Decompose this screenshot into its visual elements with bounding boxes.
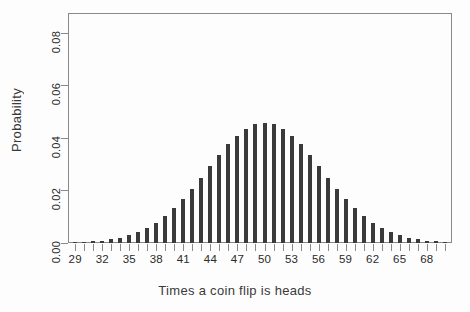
- bar: [380, 228, 384, 243]
- x-axis-tick: [237, 244, 238, 251]
- x-axis-tick: [120, 244, 121, 251]
- x-axis-tick: [382, 244, 383, 251]
- bar: [425, 241, 429, 243]
- x-axis-tick: [255, 244, 256, 251]
- y-axis-tick-label: 0.08: [50, 31, 62, 53]
- x-axis-tick: [210, 244, 211, 251]
- x-axis-tick: [292, 244, 293, 251]
- x-axis-tick: [427, 244, 428, 251]
- x-axis-tick-label: 50: [252, 253, 278, 265]
- bar: [263, 123, 267, 243]
- bar: [235, 136, 239, 244]
- bar: [100, 241, 104, 243]
- bar: [253, 124, 257, 243]
- x-axis-tick-label: 38: [143, 253, 169, 265]
- bar: [82, 242, 86, 243]
- y-axis-tick-label: 0.04: [50, 136, 62, 158]
- bar: [154, 223, 158, 244]
- y-axis-title: Probability: [8, 50, 26, 190]
- x-axis-tick: [183, 244, 184, 251]
- bar: [353, 208, 357, 243]
- bar: [136, 232, 140, 243]
- x-axis-tick: [228, 244, 229, 251]
- x-axis-tick-label: 65: [387, 253, 413, 265]
- x-axis-tick: [147, 244, 148, 251]
- bar: [272, 124, 276, 243]
- x-axis-tick: [274, 244, 275, 251]
- x-axis-tick: [436, 244, 437, 251]
- bar: [208, 166, 212, 243]
- bar: [434, 241, 438, 243]
- x-axis-tick: [129, 244, 130, 251]
- bar: [281, 129, 285, 243]
- bar: [290, 136, 294, 244]
- bar: [362, 216, 366, 243]
- x-axis-tick: [102, 244, 103, 251]
- x-axis-tick: [192, 244, 193, 251]
- x-axis-tick-label: 59: [333, 253, 359, 265]
- bar: [91, 241, 95, 243]
- bar: [416, 239, 420, 243]
- x-axis-tick-label: 29: [62, 253, 88, 265]
- bar: [335, 189, 339, 243]
- x-axis-tick: [174, 244, 175, 251]
- x-axis-title: Times a coin flip is heads: [0, 283, 470, 298]
- x-axis-tick-label: 56: [306, 253, 332, 265]
- bar: [244, 129, 248, 243]
- x-axis-tick: [391, 244, 392, 251]
- plot-area: [68, 13, 452, 243]
- bar: [226, 144, 230, 243]
- x-axis-tick: [346, 244, 347, 251]
- x-axis-tick: [265, 244, 266, 251]
- x-axis-tick: [400, 244, 401, 251]
- x-axis-tick: [84, 244, 85, 251]
- bar: [199, 178, 203, 243]
- x-axis-tick-label: 47: [224, 253, 250, 265]
- x-axis-tick-label: 62: [360, 253, 386, 265]
- x-axis-tick-label: 41: [170, 253, 196, 265]
- x-axis-tick: [283, 244, 284, 251]
- bar: [73, 242, 77, 243]
- x-axis-tick: [111, 244, 112, 251]
- bar: [109, 239, 113, 243]
- bar: [118, 238, 122, 243]
- bar: [190, 189, 194, 243]
- bar: [407, 238, 411, 243]
- y-axis-tick-label: 0.00: [50, 241, 62, 263]
- x-axis-tick-label: 44: [197, 253, 223, 265]
- bar: [326, 178, 330, 243]
- y-axis-tick-label: 0.02: [50, 188, 62, 210]
- bar: [181, 199, 185, 243]
- x-axis-tick: [138, 244, 139, 251]
- x-axis-tick: [165, 244, 166, 251]
- bar: [398, 235, 402, 243]
- x-axis-tick: [301, 244, 302, 251]
- x-axis-tick: [418, 244, 419, 251]
- x-axis-tick: [337, 244, 338, 251]
- x-axis-tick: [445, 244, 446, 251]
- x-axis-tick-label: 68: [414, 253, 440, 265]
- x-axis-tick-label: 32: [89, 253, 115, 265]
- bar: [217, 155, 221, 243]
- bar: [443, 242, 447, 243]
- x-axis-tick-label: 53: [279, 253, 305, 265]
- x-axis-tick: [355, 244, 356, 251]
- x-axis-tick: [156, 244, 157, 251]
- x-axis-tick: [310, 244, 311, 251]
- y-axis-tick-label: 0.06: [50, 83, 62, 105]
- x-axis-tick: [246, 244, 247, 251]
- x-axis-tick: [219, 244, 220, 251]
- bar: [127, 235, 131, 243]
- x-axis-tick: [319, 244, 320, 251]
- bar: [317, 166, 321, 243]
- bar: [172, 208, 176, 243]
- x-axis-tick: [328, 244, 329, 251]
- bar: [389, 232, 393, 243]
- bar: [344, 199, 348, 243]
- bar: [371, 223, 375, 244]
- x-axis-tick-label: 35: [116, 253, 142, 265]
- bar: [145, 228, 149, 243]
- x-axis-tick: [75, 244, 76, 251]
- x-axis-tick: [93, 244, 94, 251]
- x-axis-tick: [201, 244, 202, 251]
